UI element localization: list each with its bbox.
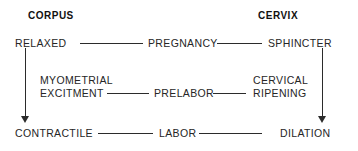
connector-pregnancy-sphincter xyxy=(217,43,262,44)
node-myometrial-excitment-line1: MYOMETRIAL xyxy=(40,74,113,87)
column-header-cervix: CERVIX xyxy=(258,10,298,21)
connector-contractile-labor xyxy=(98,133,153,134)
cervix-progression-arrow-head xyxy=(318,116,326,123)
node-pregnancy: PREGNANCY xyxy=(148,37,218,50)
flow-diagram-canvas: CORPUS CERVIX RELAXED PREGNANCY SPHINCTE… xyxy=(0,0,358,151)
column-header-corpus: CORPUS xyxy=(28,10,74,21)
connector-myometrial-prelabor xyxy=(107,93,149,94)
node-cervical-ripening: CERVICAL RIPENING xyxy=(253,74,308,100)
node-prelabor: PRELABOR xyxy=(154,87,214,100)
corpus-progression-arrow-shaft xyxy=(25,48,26,118)
connector-relaxed-pregnancy xyxy=(80,43,143,44)
node-cervical-ripening-line1: CERVICAL xyxy=(253,74,308,87)
connector-labor-dilation xyxy=(199,133,262,134)
connector-prelabor-cervical xyxy=(213,93,246,94)
node-dilation: DILATION xyxy=(280,127,330,140)
node-contractile: CONTRACTILE xyxy=(15,127,93,140)
corpus-progression-arrow-head xyxy=(21,116,29,123)
node-relaxed: RELAXED xyxy=(15,37,66,50)
cervix-progression-arrow-shaft xyxy=(322,48,323,118)
node-myometrial-excitment: MYOMETRIAL EXCITMENT xyxy=(40,74,113,100)
node-cervical-ripening-line2: RIPENING xyxy=(253,87,308,100)
node-myometrial-excitment-line2: EXCITMENT xyxy=(40,87,113,100)
node-labor: LABOR xyxy=(159,127,196,140)
